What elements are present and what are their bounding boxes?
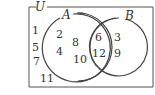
element-a-and-b: 12 — [92, 47, 106, 60]
element-only-b: 3 — [114, 31, 121, 44]
set-b-circle-top — [112, 18, 116, 19]
set-b-label: B — [124, 9, 134, 23]
element-only-a: 10 — [73, 53, 87, 66]
venn-diagram: U A B 1 5 7 11 2 4 8 10 6 12 3 9 — [0, 0, 155, 95]
element-only-a: 4 — [56, 45, 63, 58]
element-only-b: 9 — [114, 47, 121, 60]
element-outside: 7 — [33, 55, 40, 68]
element-only-a: 8 — [72, 36, 79, 49]
universe-label: U — [35, 0, 46, 14]
element-a-and-b: 6 — [95, 31, 102, 44]
set-a-label: A — [61, 8, 71, 22]
element-outside: 1 — [32, 24, 39, 37]
element-outside: 11 — [40, 72, 54, 85]
element-only-a: 2 — [56, 28, 63, 41]
element-outside: 5 — [32, 41, 39, 54]
